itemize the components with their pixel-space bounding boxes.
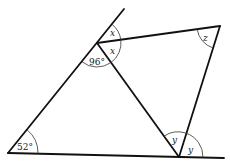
geometry-diagram: 52° 96° x x z y y bbox=[0, 0, 230, 164]
line-a-to-b-extended bbox=[8, 9, 124, 153]
angle-label-96: 96° bbox=[89, 57, 105, 67]
angle-label-52: 52° bbox=[17, 142, 33, 152]
angle-label-x-lower: x bbox=[110, 46, 115, 56]
angle-label-y-right: y bbox=[187, 145, 194, 155]
angle-label-z: z bbox=[202, 33, 208, 43]
angle-label-y-left: y bbox=[171, 135, 178, 145]
line-b-to-d bbox=[97, 43, 179, 157]
angle-label-x-upper: x bbox=[110, 28, 115, 38]
line-c-to-d bbox=[179, 26, 220, 157]
